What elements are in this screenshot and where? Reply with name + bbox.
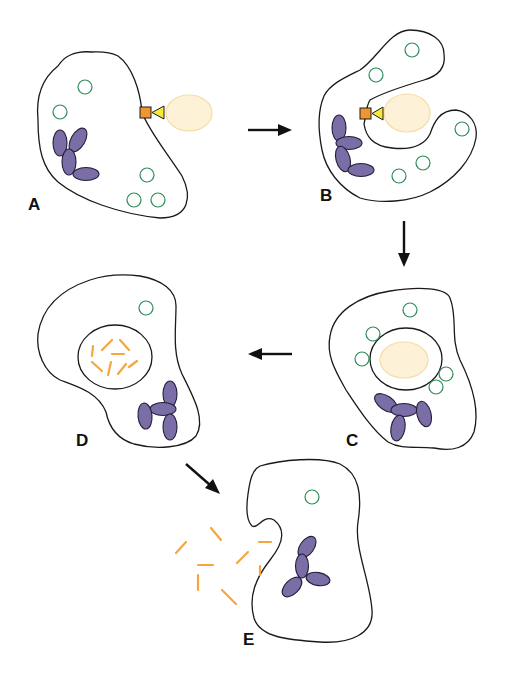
target-particle xyxy=(380,342,428,378)
target-particle xyxy=(166,95,212,131)
receptor-icon xyxy=(140,107,151,118)
ligand-icon xyxy=(152,106,164,119)
arrow-a-to-b xyxy=(248,124,292,136)
granule xyxy=(391,404,417,417)
panel-e xyxy=(176,460,372,643)
arrow-d-to-e xyxy=(186,464,220,494)
panel-a xyxy=(38,52,212,218)
granule xyxy=(163,414,177,440)
arrow-c-to-d xyxy=(248,348,292,360)
granule xyxy=(150,403,176,416)
panel-b xyxy=(319,30,476,201)
panel-label-b: B xyxy=(320,187,332,204)
phagocytosis-diagram: A B C D E xyxy=(0,0,508,674)
vacuole xyxy=(78,325,152,389)
panel-d xyxy=(38,275,200,447)
granule xyxy=(73,168,99,181)
arrow-b-to-c xyxy=(398,221,410,267)
receptor-icon xyxy=(360,108,371,119)
granule xyxy=(296,554,309,578)
panel-label-d: D xyxy=(76,432,88,449)
ligand-icon xyxy=(372,107,383,120)
target-particle xyxy=(384,94,430,132)
panel-label-e: E xyxy=(243,631,254,648)
panel-label-a: A xyxy=(28,196,40,213)
panel-label-c: C xyxy=(346,432,358,449)
granule xyxy=(348,164,374,177)
panel-c xyxy=(329,288,476,449)
